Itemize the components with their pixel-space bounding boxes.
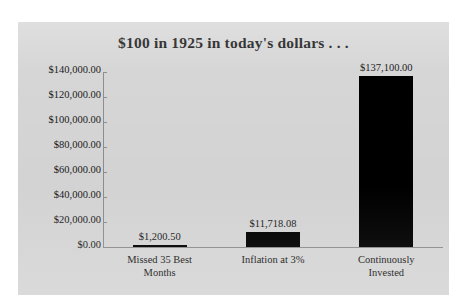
bar[interactable] — [133, 245, 187, 247]
x-axis-category-label-line: Inflation at 3% — [216, 253, 329, 266]
x-axis-category-label: ContinuouslyInvested — [330, 253, 443, 279]
bar-group: $11,718.08 — [216, 72, 329, 247]
bar-value-label: $1,200.50 — [139, 231, 181, 242]
y-axis-tick-label: $140,000.00 — [17, 64, 101, 75]
bar-value-label: $137,100.00 — [360, 62, 413, 73]
bar-value-label: $11,718.08 — [250, 218, 297, 229]
y-axis-tick-label: $120,000.00 — [17, 89, 101, 100]
bar[interactable] — [246, 232, 300, 247]
x-axis-category-label-line: Continuously — [330, 253, 443, 266]
y-axis-tick-label: $60,000.00 — [17, 164, 101, 175]
x-axis-category-label-line: Missed 35 Best — [103, 253, 216, 266]
x-axis-category-label: Missed 35 BestMonths — [103, 253, 216, 279]
x-axis-category-label: Inflation at 3% — [216, 253, 329, 266]
y-axis-tick-label: $80,000.00 — [17, 139, 101, 150]
y-axis-tick-label: $20,000.00 — [17, 214, 101, 225]
x-axis-category-label-line: Months — [103, 266, 216, 279]
chart-title: $100 in 1925 in today's dollars . . . — [18, 34, 449, 52]
bar-group: $1,200.50 — [103, 72, 216, 247]
x-axis-line — [103, 247, 443, 248]
x-axis-category-label-line: Invested — [330, 266, 443, 279]
bar[interactable] — [359, 76, 413, 247]
y-axis-tick-label: $0.00 — [17, 239, 101, 250]
plot-area: $1,200.50$11,718.08$137,100.00 — [103, 72, 443, 247]
y-axis-tick-mark — [103, 247, 107, 248]
y-axis-tick-label: $40,000.00 — [17, 189, 101, 200]
chart-panel: $100 in 1925 in today's dollars . . . $0… — [18, 22, 449, 295]
y-axis-tick-label: $100,000.00 — [17, 114, 101, 125]
bar-group: $137,100.00 — [330, 72, 443, 247]
